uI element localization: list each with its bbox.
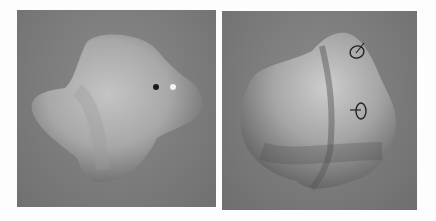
light-point-marker-icon xyxy=(170,84,176,90)
right-render-panel xyxy=(222,11,417,210)
blob-shape-left xyxy=(17,10,216,207)
blob-shape-right xyxy=(222,11,417,210)
left-render-panel xyxy=(17,10,216,207)
dark-point-marker-icon xyxy=(153,84,159,90)
